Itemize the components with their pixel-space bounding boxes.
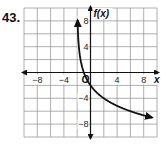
- x-tick-label: 8: [141, 75, 146, 85]
- x-tick-label: 4: [115, 75, 120, 85]
- y-tick-label: 4: [83, 42, 88, 52]
- y-tick-label: −8: [78, 119, 88, 129]
- y-tick-label: −4: [78, 93, 88, 103]
- curve-f-of-x: [78, 20, 152, 117]
- y-axis-label: f(x): [94, 8, 110, 19]
- x-axis-label: x: [153, 74, 160, 85]
- x-tick-label: −8: [32, 75, 42, 85]
- y-tick-label: 8: [83, 16, 88, 26]
- function-graph: −8−44884−4−8Of(x)x: [0, 0, 161, 144]
- axes: [22, 6, 159, 139]
- function-curve: [78, 20, 152, 117]
- x-tick-label: −4: [59, 75, 69, 85]
